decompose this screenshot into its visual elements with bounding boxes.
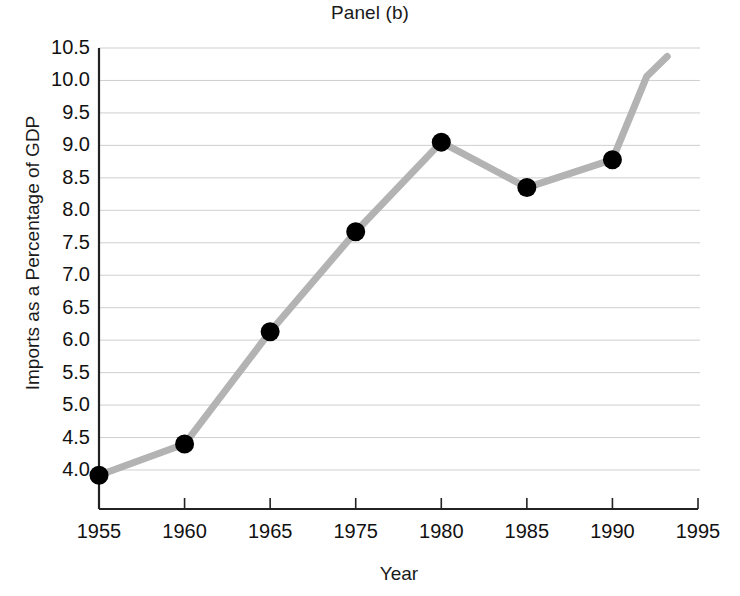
x-tick-label: 1995 <box>653 521 740 541</box>
y-tick-label: 8.5 <box>62 167 90 187</box>
data-point-marker <box>90 466 109 485</box>
data-point-marker <box>346 222 365 241</box>
y-tick-label: 9.5 <box>62 102 90 122</box>
y-tick-label: 7.0 <box>62 264 90 284</box>
y-tick-label: 10.5 <box>51 37 90 57</box>
data-point-marker <box>261 322 280 341</box>
y-tick-label: 6.5 <box>62 297 90 317</box>
y-tick-label: 5.5 <box>62 362 90 382</box>
y-tick-label: 5.0 <box>62 394 90 414</box>
y-tick-label: 9.0 <box>62 134 90 154</box>
x-tick-label: 1960 <box>140 521 230 541</box>
series-line <box>99 56 667 475</box>
plot-area <box>0 0 740 596</box>
y-tick-label: 7.5 <box>62 232 90 252</box>
data-point-marker <box>517 178 536 197</box>
y-tick-label: 6.0 <box>62 329 90 349</box>
data-point-marker <box>603 150 622 169</box>
series-line-group <box>99 56 667 475</box>
x-tick-label: 1985 <box>482 521 572 541</box>
x-tick-label: 1965 <box>225 521 315 541</box>
data-point-marker <box>432 133 451 152</box>
y-tick-label: 8.0 <box>62 199 90 219</box>
y-tick-label: 4.0 <box>62 459 90 479</box>
data-point-marker <box>175 435 194 454</box>
x-tick-label: 1975 <box>311 521 401 541</box>
x-tick-label: 1980 <box>396 521 486 541</box>
gridlines-group <box>99 48 700 470</box>
y-tick-label: 10.0 <box>51 69 90 89</box>
y-tick-label: 4.5 <box>62 427 90 447</box>
chart-figure: Panel (b) Imports as a Percentage of GDP… <box>0 0 740 596</box>
axis-ticks-group <box>99 498 698 509</box>
x-tick-label: 1990 <box>567 521 657 541</box>
x-tick-label: 1955 <box>54 521 144 541</box>
